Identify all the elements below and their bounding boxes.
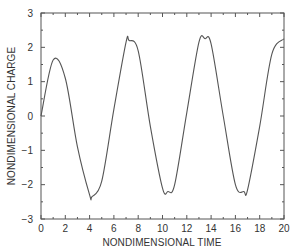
x-tick-label: 16 — [230, 223, 242, 234]
y-tick-label: 1 — [27, 76, 33, 87]
x-tick-label: 4 — [87, 223, 93, 234]
y-axis-label: NONDIMENSIONAL CHARGE — [6, 47, 17, 186]
x-tick-label: 8 — [135, 223, 141, 234]
y-tick-label: −2 — [22, 179, 34, 190]
x-axis-label: NONDIMENSIONAL TIME — [102, 237, 221, 248]
y-tick-label: 2 — [27, 42, 33, 53]
y-tick-label: 3 — [27, 8, 33, 19]
x-tick-label: 20 — [278, 223, 290, 234]
x-tick-label: 10 — [157, 223, 169, 234]
charge-curve — [41, 36, 284, 200]
x-tick-label: 6 — [111, 223, 117, 234]
line-chart: 02468101214161820 −3−2−10123 NONDIMENSIO… — [0, 0, 298, 252]
x-tick-label: 18 — [254, 223, 266, 234]
y-tick-label: 0 — [27, 111, 33, 122]
y-tick-label: −3 — [22, 214, 34, 225]
x-tick-label: 2 — [63, 223, 69, 234]
x-tick-label: 12 — [181, 223, 193, 234]
x-tick-label: 14 — [206, 223, 218, 234]
x-tick-label: 0 — [38, 223, 44, 234]
x-axis-ticks: 02468101214161820 — [38, 13, 290, 234]
y-tick-label: −1 — [22, 145, 34, 156]
